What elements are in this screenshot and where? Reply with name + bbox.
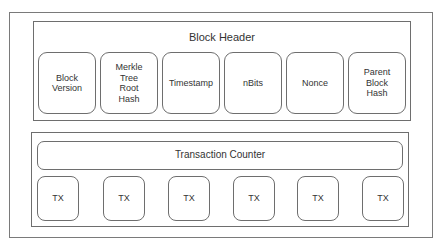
- field-label: Timestamp: [169, 78, 213, 89]
- field-label: Parent Block Hash: [359, 67, 395, 99]
- tx-box: TX: [233, 176, 275, 221]
- field-nonce: Nonce: [286, 52, 344, 114]
- tx-label: TX: [248, 193, 260, 204]
- field-label: Merkle Tree Root Hash: [111, 62, 147, 104]
- field-label: Nonce: [302, 78, 328, 89]
- field-label: nBits: [243, 78, 263, 89]
- transactions-section: Transaction Counter TX TX TX TX TX TX: [31, 132, 409, 227]
- tx-label: TX: [118, 193, 130, 204]
- transaction-counter: Transaction Counter: [37, 141, 403, 170]
- field-parent-hash: Parent Block Hash: [348, 52, 406, 114]
- tx-label: TX: [312, 193, 324, 204]
- field-nbits: nBits: [224, 52, 282, 114]
- block-header-section: Block Header Block Version Merkle Tree R…: [33, 21, 411, 121]
- field-block-version: Block Version: [38, 52, 96, 114]
- tx-box: TX: [37, 176, 79, 221]
- field-label: Block Version: [47, 73, 87, 94]
- counter-label: Transaction Counter: [175, 150, 265, 161]
- tx-box: TX: [168, 176, 210, 221]
- tx-box: TX: [362, 176, 404, 221]
- tx-box: TX: [103, 176, 145, 221]
- tx-label: TX: [183, 193, 195, 204]
- tx-label: TX: [52, 193, 64, 204]
- block-header-title: Block Header: [34, 31, 410, 43]
- field-merkle-root: Merkle Tree Root Hash: [100, 52, 158, 114]
- field-timestamp: Timestamp: [162, 52, 220, 114]
- tx-box: TX: [297, 176, 339, 221]
- tx-label: TX: [377, 193, 389, 204]
